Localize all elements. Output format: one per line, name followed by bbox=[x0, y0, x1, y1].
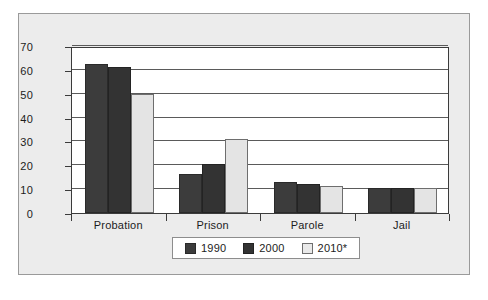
bar-jail-2010 bbox=[414, 188, 437, 213]
y-tick-label: 40 bbox=[3, 113, 33, 125]
legend-swatch-icon bbox=[243, 243, 254, 254]
legend-label: 2000 bbox=[259, 242, 284, 254]
bar-group-probation bbox=[72, 48, 167, 213]
legend-entry-2010: 2010* bbox=[302, 242, 348, 254]
y-tick-label: 70 bbox=[3, 41, 33, 53]
x-tick-mark bbox=[71, 214, 72, 221]
chart-legend: 199020002010* bbox=[172, 237, 360, 259]
x-tick-mark bbox=[166, 214, 167, 221]
bar-group-parole bbox=[261, 48, 356, 213]
legend-swatch-icon bbox=[185, 243, 196, 254]
x-tick-mark bbox=[355, 214, 356, 221]
bar-probation-2000 bbox=[108, 67, 131, 213]
y-tick-label: 60 bbox=[3, 65, 33, 77]
y-tick-label: 30 bbox=[3, 136, 33, 148]
x-category-label-parole: Parole bbox=[291, 219, 324, 231]
x-category-label-probation: Probation bbox=[94, 219, 143, 231]
y-tick-label: 0 bbox=[3, 208, 33, 220]
bar-prison-2010 bbox=[225, 139, 248, 213]
plot-area bbox=[71, 47, 449, 214]
legend-label: 2010* bbox=[318, 242, 348, 254]
gridline-70 bbox=[72, 45, 448, 46]
bar-jail-1990 bbox=[368, 188, 391, 213]
bar-group-prison bbox=[167, 48, 262, 213]
legend-entry-2000: 2000 bbox=[243, 242, 284, 254]
y-tick-label: 50 bbox=[3, 89, 33, 101]
x-tick-mark bbox=[449, 214, 450, 221]
bar-prison-2000 bbox=[202, 164, 225, 213]
legend-entry-1990: 1990 bbox=[185, 242, 226, 254]
bar-jail-2000 bbox=[391, 188, 414, 213]
legend-swatch-icon bbox=[302, 243, 313, 254]
x-category-label-prison: Prison bbox=[197, 219, 229, 231]
x-tick-mark bbox=[260, 214, 261, 221]
legend-label: 1990 bbox=[201, 242, 226, 254]
y-tick-label: 10 bbox=[3, 184, 33, 196]
bar-parole-2000 bbox=[297, 184, 320, 213]
y-tick-label: 20 bbox=[3, 160, 33, 172]
bar-prison-1990 bbox=[179, 174, 202, 213]
bar-parole-2010 bbox=[320, 186, 343, 213]
bar-group-jail bbox=[356, 48, 451, 213]
bar-probation-1990 bbox=[85, 64, 108, 213]
x-category-label-jail: Jail bbox=[393, 219, 410, 231]
bar-parole-1990 bbox=[274, 182, 297, 213]
bar-probation-2010 bbox=[131, 94, 154, 213]
chart-figure: 010203040506070 ProbationPrisonParoleJai… bbox=[18, 13, 470, 275]
